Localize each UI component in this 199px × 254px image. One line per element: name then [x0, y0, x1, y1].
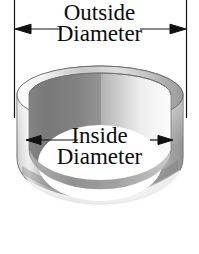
inside-diameter-label: Inside Diameter [0, 124, 199, 169]
inside-diameter-label-line2: Diameter [0, 145, 199, 168]
figure-canvas: Outside Diameter Inside Diameter [0, 0, 199, 254]
outside-diameter-label-line2: Diameter [0, 22, 199, 45]
outside-diameter-label: Outside Diameter [0, 1, 199, 46]
